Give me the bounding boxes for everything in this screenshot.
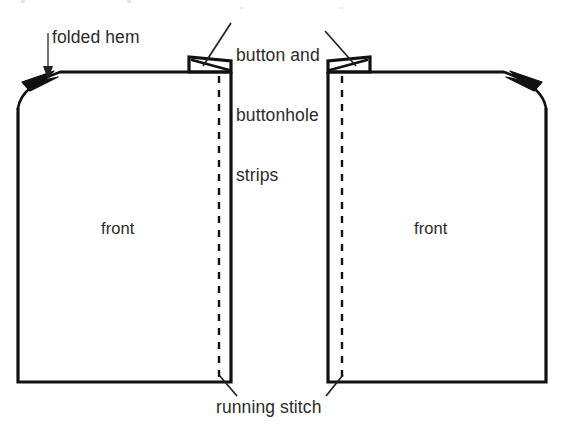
label-front-left-panel: front (101, 219, 135, 238)
running-stitch-leader-left (219, 375, 237, 396)
label-front-right-panel: front (414, 219, 448, 238)
label-folded-hem: folded hem (52, 28, 140, 48)
label-running-stitch: running stitch (216, 398, 322, 418)
label-button-strips-line-2: buttonhole (236, 106, 320, 126)
label-button-strips-line-1: button and (236, 46, 320, 66)
label-button-strips-line-3: strips (236, 166, 320, 186)
figure-root: folded hem button and buttonhole strips … (0, 0, 564, 427)
label-button-and-buttonhole-strips: button and buttonhole strips (236, 6, 320, 225)
